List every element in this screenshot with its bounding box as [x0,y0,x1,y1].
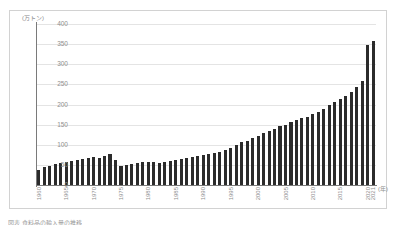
bar [141,162,144,185]
y-tick-label: 300 [57,61,68,68]
bar [257,136,260,185]
x-axis-line [36,185,377,186]
y-tick-label: 200 [57,102,68,109]
plot-area: 050100150200250300350400 [36,24,376,185]
bar [289,122,292,185]
bar [278,126,281,185]
x-tick-label: 1990 [200,187,206,200]
y-axis-unit-label: (万トン) [22,13,44,22]
bar [114,160,117,185]
x-tick-label: 1975 [118,187,124,200]
y-tick-label: 250 [57,81,68,88]
x-tick-label: 1960 [36,187,42,200]
bar [235,145,238,185]
bar [317,112,320,185]
bar [224,150,227,185]
y-tick-label: 100 [57,142,68,149]
bar [339,99,342,185]
bar [202,155,205,185]
x-tick-label: 2010 [310,187,316,200]
x-tick-label: 2005 [283,187,289,200]
bar [251,138,254,185]
bar [158,163,161,185]
bar [262,133,265,185]
bar [152,162,155,185]
bar [108,154,111,185]
x-tick-label: 2000 [255,187,261,200]
y-tick-label: 50 [61,162,68,169]
bar [103,156,106,185]
bar [81,159,84,185]
bar [372,41,375,185]
y-tick-label: 400 [57,21,68,28]
x-axis-tick-labels: 1960196519701975198019851990199520002005… [36,187,377,213]
bar [218,152,221,185]
bar [268,131,271,185]
bar [284,125,287,185]
x-axis-unit-label: (年) [378,184,388,193]
chart-screenshot: (万トン) 050100150200250300350400 196019651… [0,0,398,225]
bar [229,148,232,185]
x-tick-label: 2015 [337,187,343,200]
bar [180,159,183,185]
x-tick-label: 1970 [91,187,97,200]
figure-caption: 図表 食料品の輸入量の推移 [8,218,82,225]
bar [300,118,303,185]
bar [169,161,172,185]
bar [147,162,150,185]
bar [240,142,243,185]
bar [191,157,194,185]
bar [207,154,210,185]
bar [119,166,122,185]
bar [213,153,216,185]
bar [70,161,73,185]
bar [76,160,79,185]
bar [311,114,314,185]
bar [333,102,336,185]
bar [355,87,358,185]
bar [136,163,139,185]
bar [92,157,95,185]
bar [98,158,101,185]
y-tick-label: 350 [57,41,68,48]
bar [361,81,364,185]
bar [328,105,331,185]
bar [174,160,177,185]
x-tick-label: 2021 [370,187,376,200]
bar [246,141,249,185]
y-axis-line [36,22,37,187]
bar [322,109,325,185]
bar [273,129,276,185]
bar [196,156,199,185]
bar [130,164,133,185]
bar [366,45,369,185]
bar [185,158,188,185]
bar [306,117,309,185]
bar [344,96,347,185]
x-tick-label: 1995 [228,187,234,200]
bar [87,158,90,185]
y-tick-label: 150 [57,122,68,129]
bar [163,162,166,185]
x-tick-label: 1980 [145,187,151,200]
bar [125,165,128,185]
bar-series [36,24,376,185]
x-tick-label: 1985 [173,187,179,200]
bar [350,92,353,185]
bar [295,120,298,185]
x-tick-label: 1965 [63,187,69,200]
y-axis-tick-labels: 050100150200250300350400 [36,24,70,185]
